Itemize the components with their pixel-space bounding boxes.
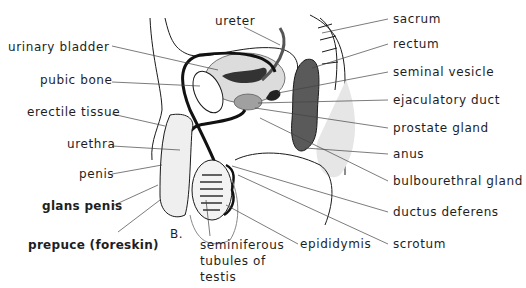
label-scrotum: scrotum	[393, 237, 446, 251]
label-pubic-bone: pubic bone	[40, 73, 113, 87]
label-seminal-vesicle: seminal vesicle	[393, 65, 494, 79]
label-penis: penis	[79, 167, 114, 181]
prostate-shape	[234, 94, 262, 110]
label-bulbourethral-gland: bulbourethral gland	[393, 174, 523, 188]
label-urethra: urethra	[67, 137, 115, 151]
label-seminiferous-line2: tubules of	[200, 254, 266, 268]
sacrum-outline	[320, 18, 337, 90]
testis-shape	[192, 160, 232, 220]
label-anus: anus	[393, 147, 424, 161]
label-ureter: ureter	[215, 14, 255, 28]
anatomy-diagram: urinary bladder pubic bone erectile tiss…	[0, 0, 526, 288]
label-rectum: rectum	[393, 37, 439, 51]
buttock-shading	[317, 80, 356, 177]
panel-letter: B.	[170, 227, 183, 241]
label-ejaculatory-duct: ejaculatory duct	[393, 93, 500, 107]
label-seminiferous-line1: seminiferous	[200, 238, 284, 252]
penis-shape	[160, 114, 193, 217]
label-erectile-tissue: erectile tissue	[27, 105, 120, 119]
rectum	[292, 59, 319, 151]
label-urinary-bladder: urinary bladder	[8, 40, 110, 54]
label-seminiferous-line3: testis	[200, 270, 236, 284]
label-sacrum: sacrum	[393, 12, 441, 26]
label-ductus-deferens: ductus deferens	[393, 205, 499, 219]
label-epididymis: epididymis	[300, 237, 371, 251]
abdominal-wall-outline	[150, 18, 162, 160]
label-prostate-gland: prostate gland	[393, 121, 489, 135]
label-glans-penis: glans penis	[42, 199, 123, 213]
perineum-outline	[235, 153, 332, 225]
label-prepuce: prepuce (foreskin)	[28, 238, 159, 252]
